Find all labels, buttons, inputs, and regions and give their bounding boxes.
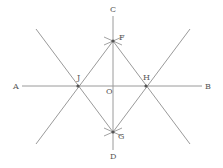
label-O: O	[106, 87, 113, 96]
point-F	[111, 39, 114, 42]
label-J: J	[76, 73, 80, 82]
line-through-F-J	[36, 41, 113, 144]
label-B: B	[205, 82, 211, 91]
label-C: C	[110, 5, 116, 14]
label-G: G	[118, 132, 124, 141]
line-through-G-H	[113, 29, 190, 132]
label-A: A	[12, 82, 19, 91]
label-D: D	[110, 152, 116, 161]
line-through-G-J	[36, 29, 113, 132]
geometry-diagram: A B C D F G J H O	[0, 0, 223, 168]
point-J	[76, 84, 79, 87]
point-H	[144, 84, 147, 87]
point-G	[111, 130, 114, 133]
label-F: F	[119, 33, 125, 42]
line-through-F-H	[113, 41, 190, 144]
label-H: H	[143, 73, 150, 82]
